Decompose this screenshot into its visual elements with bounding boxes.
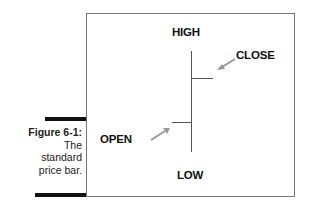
low-label: LOW <box>177 169 203 181</box>
price-bar-diagram <box>0 0 311 206</box>
close-label: CLOSE <box>236 49 275 61</box>
close-arrow-icon <box>217 59 235 70</box>
high-label: HIGH <box>172 26 200 38</box>
open-label: OPEN <box>100 133 132 145</box>
open-arrow-icon <box>151 128 170 140</box>
